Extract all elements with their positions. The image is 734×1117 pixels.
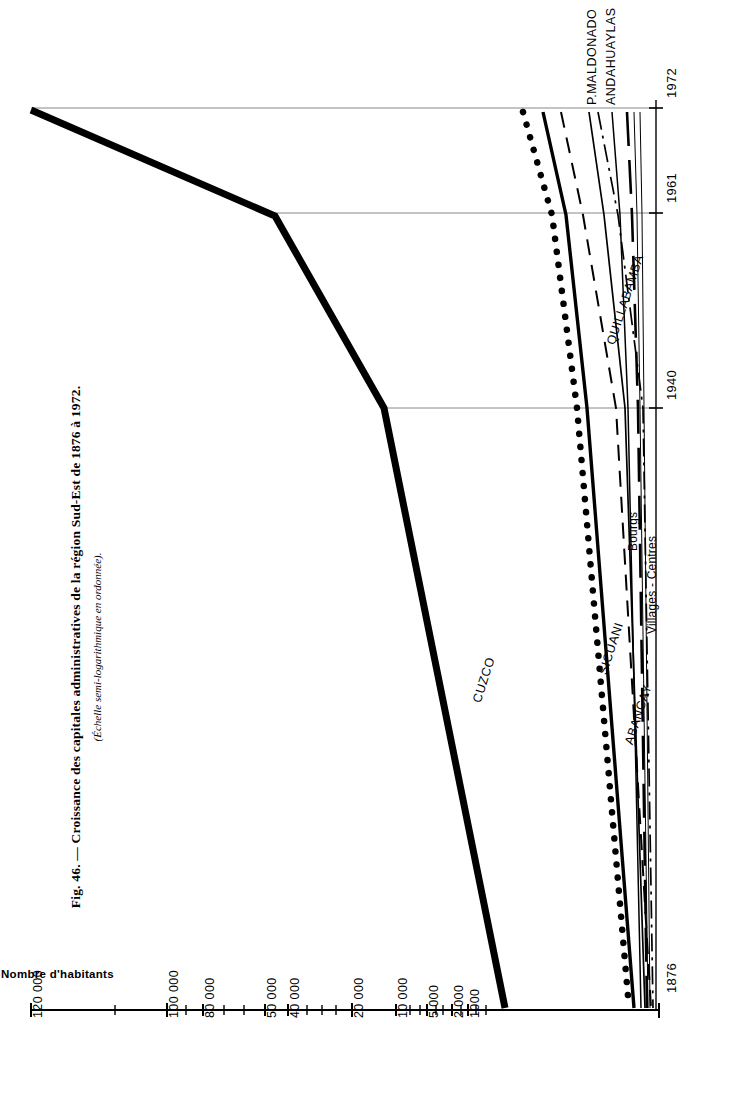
series-label-bourgs: Bourgs: [626, 512, 640, 551]
chart-svg: [0, 0, 734, 1117]
ticklabel-10000: 10 000: [396, 977, 410, 1018]
yearlabel-1876: 1876: [664, 963, 679, 993]
series-label-andahuaylas: ANDAHUAYLAS: [604, 7, 618, 105]
series-label-p-maldonado: P.MALDONADO: [585, 9, 599, 105]
series-label-villages-centres: Villages - Centres: [645, 536, 659, 634]
ticklabel-40000: 40 000: [288, 977, 302, 1018]
ticklabel-80000: 80 000: [203, 977, 217, 1018]
ticklabel-5000: 5 000: [427, 985, 441, 1018]
value-axis: [31, 1003, 659, 1018]
chart-plot-area: [0, 0, 734, 1117]
series-line-sicuani: [523, 112, 629, 1008]
ticklabel-100000: 100 000: [167, 970, 181, 1018]
ticklabel-2000: 2 000: [452, 985, 466, 1018]
series-line-cuzco: [31, 110, 505, 1008]
ticklabel-20000: 20 000: [352, 977, 366, 1018]
yearlabel-1961: 1961: [664, 173, 679, 203]
figure-canvas: Fig. 46. — Croissance des capitales admi…: [0, 0, 734, 1117]
yearlabel-1972: 1972: [664, 68, 679, 98]
series-line-bourgs: [612, 112, 641, 1008]
yearlabel-1940: 1940: [664, 370, 679, 400]
ticklabel-120000: 120 000: [31, 970, 45, 1018]
ticklabel-1000: 1000: [468, 989, 482, 1018]
ticklabel-50000: 50 000: [265, 977, 279, 1018]
